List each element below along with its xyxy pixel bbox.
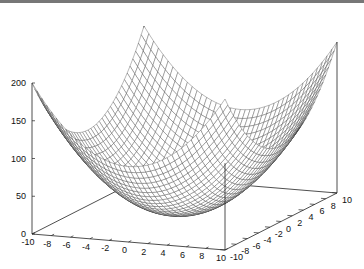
y-axis-ticks: -10-8-6-4-20246810 bbox=[220, 193, 352, 262]
x-tick-label: 10 bbox=[216, 253, 226, 263]
x-tick-label: 4 bbox=[161, 248, 166, 258]
z-tick-label: 0 bbox=[21, 229, 26, 239]
z-tick-label: 100 bbox=[11, 154, 26, 164]
y-tick-label: 8 bbox=[331, 201, 336, 211]
y-tick-label: 0 bbox=[286, 224, 291, 234]
x-tick bbox=[225, 249, 228, 250]
mesh-cell bbox=[37, 91, 45, 104]
x-tick-label: -4 bbox=[82, 242, 90, 252]
x-tick-label: 2 bbox=[141, 247, 146, 257]
x-tick-label: 0 bbox=[122, 245, 127, 255]
z-axis-ticks: 050100150200 bbox=[11, 78, 35, 239]
surface-mesh bbox=[32, 26, 337, 216]
surface-plot: -10-8-6-4-20246810 -10-8-6-4-20246810 05… bbox=[0, 0, 364, 269]
mesh-cell bbox=[42, 98, 50, 111]
y-tick-label: -4 bbox=[264, 235, 272, 245]
y-tick-label: -8 bbox=[241, 246, 249, 256]
z-tick-label: 150 bbox=[11, 116, 26, 126]
y-tick-label: 2 bbox=[297, 218, 302, 228]
y-tick-label: 10 bbox=[342, 195, 352, 205]
mesh-cell bbox=[329, 42, 337, 58]
x-tick-label: -8 bbox=[43, 239, 51, 249]
x-tick-label: 6 bbox=[180, 250, 185, 260]
x-tick-label: -2 bbox=[101, 243, 109, 253]
x-tick-label: 8 bbox=[199, 251, 204, 261]
z-tick-label: 50 bbox=[16, 191, 26, 201]
y-tick-label: -2 bbox=[275, 229, 283, 239]
y-tick-label: 4 bbox=[308, 212, 313, 222]
y-tick-label: 6 bbox=[320, 206, 325, 216]
y-tick-label: -6 bbox=[252, 241, 260, 251]
z-tick-label: 200 bbox=[11, 78, 26, 88]
x-tick-label: -6 bbox=[63, 240, 71, 250]
